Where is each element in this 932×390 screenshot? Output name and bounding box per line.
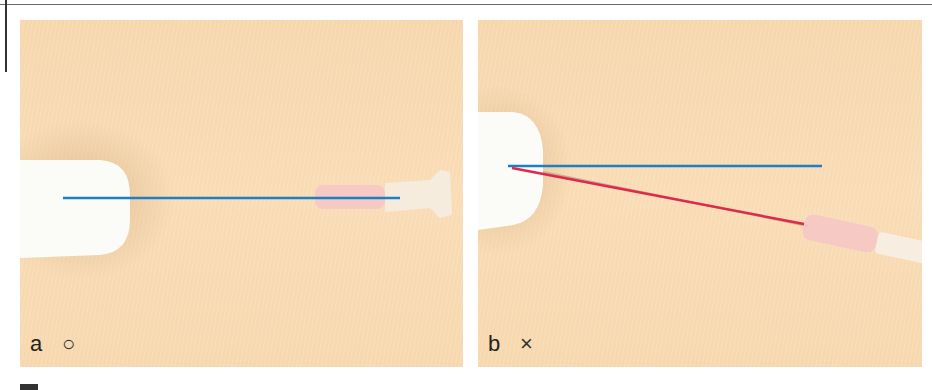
syringe-connector: [385, 170, 452, 218]
panel-label-a: a: [30, 331, 42, 357]
needle-hub: [801, 213, 880, 254]
panel-a-illustration: [20, 20, 463, 367]
caption-marker-icon: [20, 384, 38, 390]
top-rule: [0, 4, 932, 5]
panel-b-illustration: [478, 20, 922, 367]
syringe-connector: [874, 232, 922, 266]
incorrect-mark-icon: ×: [520, 331, 533, 357]
figure-panel-a: a ○: [20, 20, 463, 367]
correct-mark-icon: ○: [62, 331, 75, 357]
side-bar: [5, 0, 7, 72]
figure-panel-b: b ×: [478, 20, 922, 367]
device-tip: [20, 160, 130, 258]
panel-label-b: b: [488, 331, 500, 357]
